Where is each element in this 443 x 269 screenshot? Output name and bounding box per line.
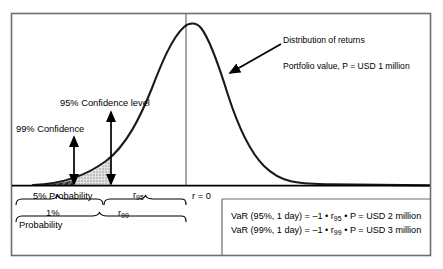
brace-r95 [104, 196, 186, 206]
var-95-formula-subscript: 95 [334, 215, 342, 222]
var-95-formula-part1: VaR (95%, 1 day) = –1 • r [231, 211, 334, 221]
var-99-formula: VaR (99%, 1 day) = –1 • r99 • P = USD 3 … [231, 226, 421, 236]
var-95-formula: VaR (95%, 1 day) = –1 • r95 • P = USD 2 … [231, 212, 421, 222]
distribution-pointer-arrow [230, 44, 281, 73]
confidence-95-label: 95% Confidence level [60, 99, 150, 108]
confidence-99-label: 99% Confidence [16, 125, 84, 134]
probability-1pct-label-line1: 1% [46, 209, 59, 218]
var-99-formula-part1: VaR (99%, 1 day) = –1 • r [231, 225, 334, 235]
var-99-formula-subscript: 99 [334, 229, 342, 236]
var-95-formula-part2: • P = USD 2 million [342, 211, 422, 221]
probability-1pct-label-line2: Probability [19, 221, 62, 230]
var-99-formula-part2: • P = USD 3 million [342, 225, 422, 235]
probability-5pct-label: 5% Probability [33, 192, 92, 201]
r-zero-label: r = 0 [192, 192, 211, 201]
portfolio-value-label: Portfolio value, P = USD 1 million [283, 62, 410, 71]
r95-subscript: 95 [136, 194, 144, 201]
r99-subscript: 99 [121, 212, 129, 219]
r99-label: r99 [118, 209, 129, 219]
r95-label: r95 [133, 191, 144, 201]
distribution-of-returns-label: Distribution of returns [283, 36, 365, 45]
